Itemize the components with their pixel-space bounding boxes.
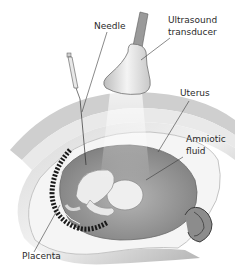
label-placenta: Placenta — [22, 250, 61, 262]
syringe-icon — [67, 53, 80, 99]
leader-transducer — [141, 38, 170, 60]
label-ultrasound-transducer-line2: transducer — [168, 26, 217, 38]
label-needle: Needle — [94, 20, 126, 32]
label-ultrasound-transducer-line1: Ultrasound — [168, 14, 217, 26]
label-amniotic-fluid-line1: Amniotic — [186, 133, 226, 145]
label-uterus: Uterus — [180, 87, 210, 99]
label-amniotic-fluid-line2: fluid — [186, 145, 206, 157]
